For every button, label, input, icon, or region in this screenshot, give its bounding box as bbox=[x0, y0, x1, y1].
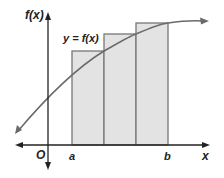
rectangle-3 bbox=[136, 23, 168, 145]
curve-arrow-left-icon bbox=[15, 125, 22, 134]
origin-label: O bbox=[36, 148, 46, 162]
curve-label: y = f(x) bbox=[62, 32, 99, 44]
x-axis-arrow-left-icon bbox=[15, 142, 23, 148]
curve-arrow-right-icon bbox=[200, 18, 209, 25]
x-axis-arrow-right-icon bbox=[202, 142, 210, 148]
y-axis-arrow-up-icon bbox=[45, 12, 51, 20]
y-axis-arrow-down-icon bbox=[45, 162, 51, 170]
riemann-sum-diagram: f(x) y = f(x) O a b x bbox=[0, 0, 224, 178]
rectangle-1 bbox=[72, 51, 104, 145]
rectangle-2 bbox=[104, 34, 136, 145]
x-axis-label: x bbox=[201, 149, 210, 163]
b-label: b bbox=[164, 150, 171, 162]
y-axis-label: f(x) bbox=[25, 8, 44, 22]
a-label: a bbox=[69, 150, 75, 162]
